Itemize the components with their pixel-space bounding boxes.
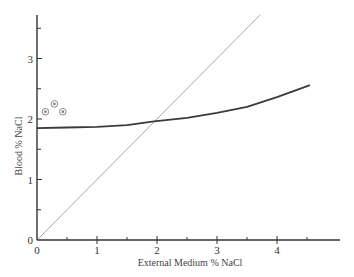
y-axis: 0123 Blood % NaCl [13, 15, 42, 246]
blood-curve [37, 85, 310, 128]
data-markers [42, 101, 66, 115]
x-tick-label: 0 [34, 244, 40, 256]
x-tick-label: 3 [214, 244, 220, 256]
plot-area [37, 15, 310, 240]
y-tick-label: 3 [28, 53, 34, 65]
x-tick-label: 1 [94, 244, 100, 256]
data-point-marker [60, 108, 67, 115]
x-axis: 01234 External Medium % NaCl [34, 236, 340, 268]
y-tick-label: 1 [28, 174, 34, 186]
x-ticks: 01234 [34, 236, 307, 256]
y-tick-label: 0 [28, 234, 34, 246]
x-tick-label: 4 [274, 244, 280, 256]
x-tick-label: 2 [154, 244, 160, 256]
data-point-marker [42, 108, 49, 115]
y-axis-label: Blood % NaCl [13, 116, 24, 175]
chart: 01234 External Medium % NaCl 0123 Blood … [0, 0, 354, 277]
y-ticks: 0123 [28, 28, 43, 246]
data-point-marker [51, 101, 58, 108]
x-axis-label: External Medium % NaCl [138, 257, 243, 268]
y-tick-label: 2 [28, 113, 34, 125]
